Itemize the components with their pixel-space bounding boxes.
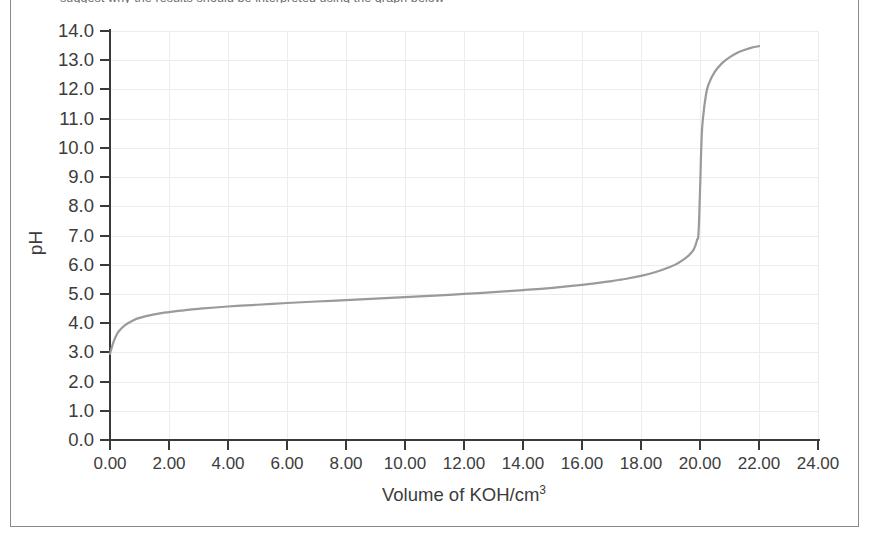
- y-axis-tick-label: 14.0: [36, 22, 94, 41]
- y-axis-tick-label: 5.0: [36, 285, 94, 304]
- x-axis-tick: [227, 441, 229, 450]
- y-axis-tick: [100, 147, 109, 149]
- y-axis-tick-label: 0.0: [36, 431, 94, 450]
- x-axis-tick: [109, 441, 111, 450]
- x-axis-tick: [581, 441, 583, 450]
- curve-svg: [110, 31, 818, 440]
- y-axis-tick: [100, 264, 109, 266]
- x-axis-tick-label: 24.00: [783, 455, 853, 472]
- y-axis-tick: [100, 322, 109, 324]
- x-axis-tick: [522, 441, 524, 450]
- y-axis-tick: [100, 176, 109, 178]
- x-axis-tick: [345, 441, 347, 450]
- x-axis-title: Volume of KOH/cm3: [110, 484, 818, 506]
- titration-curve-chart: 14.013.012.011.010.09.08.07.06.05.04.03.…: [0, 0, 869, 538]
- y-axis-tick: [100, 351, 109, 353]
- y-axis-tick-label: 9.0: [36, 168, 94, 187]
- y-axis-title: pH: [25, 213, 47, 273]
- y-axis-tick: [100, 235, 109, 237]
- y-axis-tick: [100, 59, 109, 61]
- y-axis-tick: [100, 381, 109, 383]
- y-axis-tick-label: 2.0: [36, 373, 94, 392]
- y-axis-tick: [100, 118, 109, 120]
- x-axis-title-superscript: 3: [539, 483, 546, 497]
- x-axis-tick: [463, 441, 465, 450]
- y-axis-tick-label: 11.0: [36, 110, 94, 129]
- y-axis-tick: [100, 205, 109, 207]
- x-axis-tick: [286, 441, 288, 450]
- y-axis-tick-label: 4.0: [36, 314, 94, 333]
- x-axis-tick: [168, 441, 170, 450]
- x-axis-tick: [640, 441, 642, 450]
- y-axis-tick: [100, 439, 109, 441]
- y-axis-tick-label: 12.0: [36, 80, 94, 99]
- x-axis-title-text: Volume of KOH/cm: [382, 484, 539, 505]
- y-axis-tick: [100, 410, 109, 412]
- y-axis-tick-label: 10.0: [36, 139, 94, 158]
- x-axis-tick: [817, 441, 819, 450]
- x-axis-tick: [699, 441, 701, 450]
- y-axis-tick-label: 1.0: [36, 402, 94, 421]
- y-axis-tick: [100, 88, 109, 90]
- x-axis-tick: [758, 441, 760, 450]
- y-axis-tick-label: 13.0: [36, 51, 94, 70]
- titration-curve-line: [110, 46, 759, 354]
- y-axis-tick-label: 3.0: [36, 343, 94, 362]
- gridline-vertical: [818, 31, 819, 440]
- y-axis-tick: [100, 293, 109, 295]
- x-axis-tick: [404, 441, 406, 450]
- y-axis-tick: [100, 30, 109, 32]
